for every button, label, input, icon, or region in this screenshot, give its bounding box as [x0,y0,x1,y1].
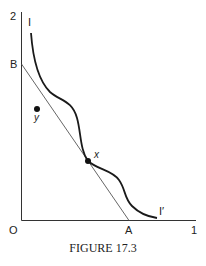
point-x-label: x [93,149,100,160]
x-intercept-label-a: A [125,224,133,236]
origin-label: O [9,224,18,236]
figure-diagram: 2 B O A 1 I I′ x y FIGURE 17.3 [0,0,206,266]
y-axis-top-label: 2 [10,10,16,22]
figure-caption: FIGURE 17.3 [69,241,136,255]
indifference-curve [31,33,157,218]
curve-start-label: I [28,16,31,28]
budget-line-ab [22,64,130,221]
point-x [85,158,91,164]
x-axis-right-label: 1 [191,224,197,236]
curve-end-label: I′ [159,205,164,217]
y-intercept-label-b: B [10,58,17,70]
point-y-label: y [33,112,40,123]
